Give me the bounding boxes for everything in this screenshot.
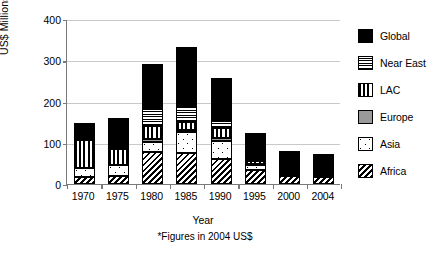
bar-2000[interactable] (279, 151, 300, 184)
legend-label: Europe (380, 111, 413, 123)
bar-segment-africa[interactable] (211, 159, 232, 184)
bar-1975[interactable] (108, 118, 129, 184)
bar-segment-asia[interactable] (108, 165, 129, 176)
bar-segment-near-east[interactable] (142, 109, 163, 126)
y-tick-label: 200 (31, 98, 61, 108)
legend-swatch-asia-icon (358, 137, 373, 151)
plot-area: 0100200300400 (66, 20, 340, 185)
y-tick-label: 400 (31, 15, 61, 25)
y-tick-label: 0 (31, 180, 61, 190)
bar-segment-asia[interactable] (211, 141, 232, 159)
x-tick-label-2004: 2004 (300, 190, 346, 202)
bar-segment-africa[interactable] (74, 177, 95, 184)
legend-item-europe[interactable]: Europe (358, 103, 444, 130)
legend-swatch-lac-icon (358, 83, 373, 97)
legend-label: LAC (380, 84, 400, 96)
bar-segment-asia[interactable] (176, 132, 197, 153)
bar-segment-africa[interactable] (142, 152, 163, 184)
x-tick-mark (204, 184, 205, 189)
bar-segment-lac[interactable] (211, 128, 232, 138)
bar-segment-global[interactable] (74, 123, 95, 140)
x-tick-mark (307, 184, 308, 189)
bar-2004[interactable] (313, 153, 334, 184)
bar-segment-africa[interactable] (108, 176, 129, 184)
bar-segment-lac[interactable] (245, 161, 266, 163)
legend-swatch-global-icon (358, 29, 373, 43)
bar-segment-near-east[interactable] (211, 120, 232, 129)
bar-segment-global[interactable] (176, 47, 197, 106)
bar-1980[interactable] (142, 64, 163, 184)
x-tick-mark (341, 184, 342, 189)
y-gridline (67, 61, 340, 62)
y-tick-mark (63, 144, 67, 145)
bar-segment-asia[interactable] (142, 142, 163, 153)
chart-legend: GlobalNear EastLACEuropeAsiaAfrica (358, 22, 444, 184)
legend-swatch-africa-icon (358, 164, 373, 178)
bar-segment-europe[interactable] (211, 138, 232, 140)
bar-segment-asia[interactable] (74, 168, 95, 177)
legend-item-global[interactable]: Global (358, 22, 444, 49)
bar-segment-asia[interactable] (245, 165, 266, 170)
bar-1970[interactable] (74, 123, 95, 184)
bar-segment-lac[interactable] (176, 122, 197, 130)
bar-segment-global[interactable] (245, 133, 266, 160)
bar-1990[interactable] (211, 78, 232, 184)
legend-item-lac[interactable]: LAC (358, 76, 444, 103)
chart-footnote: *Figures in 2004 US$ (40, 231, 370, 242)
legend-item-asia[interactable]: Asia (358, 130, 444, 157)
x-tick-mark (238, 184, 239, 189)
bar-segment-africa[interactable] (279, 176, 300, 184)
bar-segment-near-east[interactable] (176, 106, 197, 121)
bar-segment-lac[interactable] (108, 149, 129, 166)
bar-segment-africa[interactable] (176, 153, 197, 184)
y-tick-label: 100 (31, 139, 61, 149)
y-tick-mark (63, 61, 67, 62)
bar-segment-global[interactable] (313, 154, 334, 178)
bar-segment-global[interactable] (108, 118, 129, 149)
legend-label: Global (380, 30, 410, 42)
y-tick-label: 300 (31, 56, 61, 66)
legend-item-neareast[interactable]: Near East (358, 49, 444, 76)
bar-segment-global[interactable] (279, 151, 300, 176)
bar-segment-lac[interactable] (142, 126, 163, 139)
x-tick-mark (136, 184, 137, 189)
legend-item-africa[interactable]: Africa (358, 157, 444, 184)
x-tick-mark (101, 184, 102, 189)
bar-segment-global[interactable] (142, 64, 163, 108)
bar-segment-africa[interactable] (245, 170, 266, 184)
x-axis-title: Year (66, 214, 340, 226)
bar-segment-europe[interactable] (142, 139, 163, 142)
legend-label: Near East (380, 57, 426, 69)
legend-label: Africa (380, 165, 406, 177)
bar-segment-europe[interactable] (176, 130, 197, 132)
y-tick-mark (63, 20, 67, 21)
bar-segment-global[interactable] (211, 78, 232, 120)
y-gridline (67, 103, 340, 104)
stacked-bar-chart: US$ Millions* 0100200300400 197019751980… (0, 0, 447, 253)
legend-label: Asia (380, 138, 400, 150)
legend-swatch-europe-icon (358, 110, 373, 124)
x-tick-mark (273, 184, 274, 189)
x-tick-mark (67, 184, 68, 189)
y-gridline (67, 20, 340, 21)
x-tick-mark (170, 184, 171, 189)
legend-swatch-neareast-icon (358, 56, 373, 70)
y-tick-mark (63, 103, 67, 104)
bar-1995[interactable] (245, 133, 266, 184)
bar-segment-lac[interactable] (74, 140, 95, 168)
bar-segment-africa[interactable] (313, 177, 334, 184)
bar-1985[interactable] (176, 47, 197, 184)
y-axis-title: US$ Millions* (0, 0, 10, 55)
